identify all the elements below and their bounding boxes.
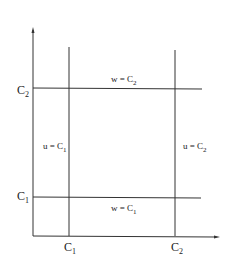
x-tick-c2: C2 <box>171 240 183 256</box>
y-tick-c1: C1 <box>17 189 29 205</box>
x-axis <box>33 236 216 237</box>
level-set-diagram: C2 C1 C1 C2 w = C2 w = C1 u = C1 u = C2 <box>0 0 227 269</box>
line-w-c2 <box>33 88 202 89</box>
line-w-c1 <box>33 197 201 198</box>
x-tick-c1: C1 <box>64 240 76 256</box>
label-u-c1: u = C1 <box>43 141 67 154</box>
label-u-c2: u = C2 <box>183 141 207 154</box>
label-w-c1: w = C1 <box>111 203 137 216</box>
label-w-c2: w = C2 <box>111 74 137 87</box>
y-axis-arrow-icon <box>32 27 35 33</box>
y-tick-c2: C2 <box>17 83 29 99</box>
x-axis-arrow-icon <box>214 236 220 239</box>
